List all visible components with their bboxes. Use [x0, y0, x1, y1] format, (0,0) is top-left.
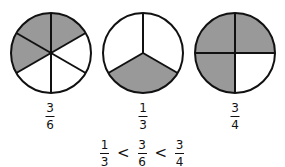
fraction-bar: [46, 116, 55, 117]
numerator: 3: [46, 102, 54, 114]
denominator: 4: [176, 156, 184, 167]
fraction-one-third: 1 3: [100, 139, 109, 167]
numerator: 3: [138, 139, 146, 151]
numerator: 3: [176, 139, 184, 151]
circle-quarters: [195, 13, 275, 93]
numerator: 1: [101, 139, 109, 151]
denominator: 3: [139, 119, 147, 131]
inequality: 1 3 < 3 6 < 3 4: [100, 139, 184, 167]
fraction-bar: [100, 153, 109, 154]
fraction-circles: [0, 0, 285, 100]
numerator: 3: [231, 102, 239, 114]
denominator: 6: [46, 119, 54, 131]
denominator: 4: [231, 119, 239, 131]
fraction-bar: [175, 153, 184, 154]
less-than-sign: <: [155, 146, 168, 161]
fraction-bar: [231, 116, 240, 117]
fraction-three-fourths: 3 4: [175, 139, 184, 167]
label-three-sixths: 3 6: [46, 102, 55, 131]
circle-thirds: [103, 13, 183, 93]
less-than-sign: <: [117, 146, 130, 161]
label-three-fourths: 3 4: [231, 102, 240, 131]
fraction-bar: [139, 116, 148, 117]
label-one-third: 1 3: [139, 102, 148, 131]
denominator: 6: [138, 156, 146, 167]
denominator: 3: [101, 156, 109, 167]
fraction-three-sixths: 3 6: [138, 139, 147, 167]
fraction-bar: [138, 153, 147, 154]
circle-sixths: [11, 13, 91, 93]
numerator: 1: [139, 102, 147, 114]
